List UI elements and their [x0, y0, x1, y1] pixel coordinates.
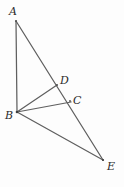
vertex-dot-E: [102, 159, 104, 161]
vertex-label-A: A: [9, 6, 17, 17]
vertex-label-D: D: [60, 75, 69, 86]
vertex-dot-D: [56, 84, 58, 86]
segment-AB: [16, 21, 17, 112]
vertex-dot-C: [69, 100, 71, 102]
vertex-dot-A: [15, 20, 17, 22]
vertex-label-B: B: [5, 110, 13, 121]
vertex-dot-B: [16, 111, 19, 114]
segment-BE: [17, 112, 103, 160]
geometry-canvas: [0, 0, 124, 187]
vertex-label-C: C: [73, 95, 81, 106]
geometry-figure: A B C D E: [0, 0, 124, 187]
vertex-label-E: E: [107, 161, 115, 172]
segment-AE: [16, 21, 103, 160]
